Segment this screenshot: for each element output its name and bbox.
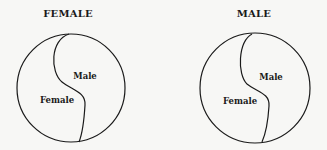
male-diagram-divider-curve	[240, 34, 269, 142]
yin-yang-diagrams: FEMALE Male Female MALE Male Female	[0, 0, 327, 150]
male-diagram-title: MALE	[237, 8, 271, 19]
male-diagram-male-label: Male	[259, 72, 283, 82]
female-diagram-title: FEMALE	[43, 8, 93, 19]
female-diagram-female-label: Female	[40, 95, 75, 105]
female-diagram-divider-curve	[54, 34, 85, 142]
male-diagram: MALE Male Female	[200, 8, 310, 143]
male-diagram-female-label: Female	[223, 96, 258, 106]
female-diagram: FEMALE Male Female	[17, 8, 125, 142]
female-diagram-male-label: Male	[73, 71, 97, 81]
male-diagram-circle	[200, 33, 310, 143]
